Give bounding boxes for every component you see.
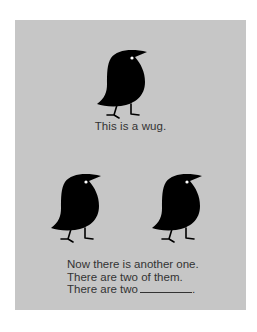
line-3-text: There are two bbox=[67, 283, 138, 295]
wug-icon bbox=[152, 172, 214, 244]
line-2: There are two of them. bbox=[67, 271, 199, 284]
caption: This is a wug. bbox=[15, 120, 246, 132]
wug-icon bbox=[51, 172, 113, 244]
line-3: There are two. bbox=[67, 283, 199, 296]
blank-suffix: . bbox=[192, 283, 195, 295]
answer-blank bbox=[140, 283, 192, 293]
question-text: Now there is another one. There are two … bbox=[67, 258, 199, 296]
wug-icon bbox=[97, 48, 159, 120]
wug-test-card: This is a wug. Now there is another one.… bbox=[15, 20, 246, 310]
line-1: Now there is another one. bbox=[67, 258, 199, 271]
